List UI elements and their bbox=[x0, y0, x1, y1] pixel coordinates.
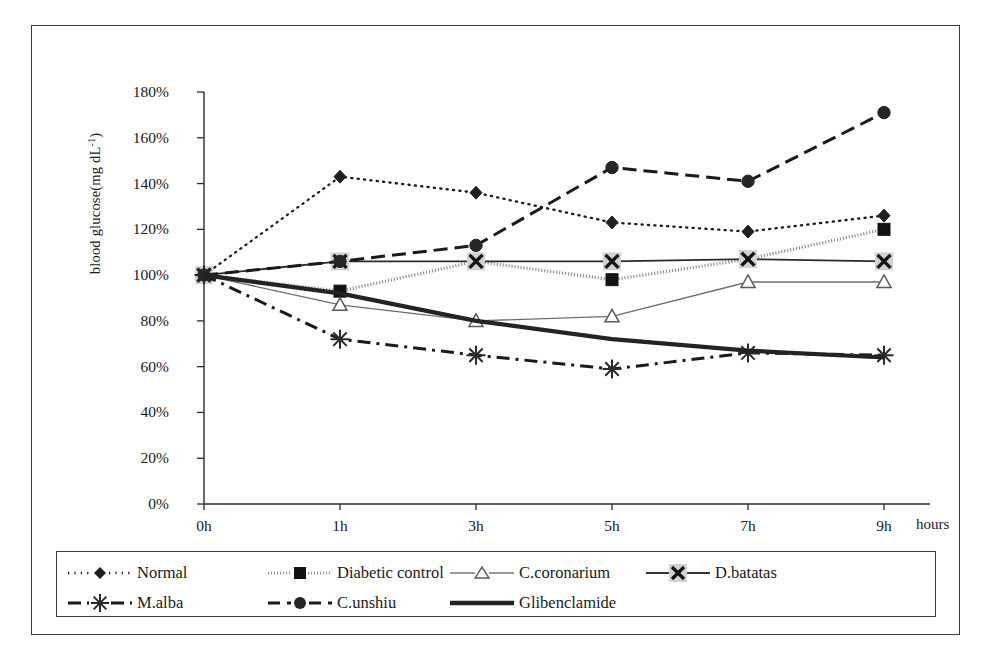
chart-legend: NormalDiabetic controlC.coronariumD.bata… bbox=[56, 551, 936, 617]
legend-label: Glibenclamide bbox=[515, 595, 626, 612]
x-tick-label: 3h bbox=[446, 518, 506, 534]
legend-swatch-icon bbox=[267, 562, 333, 584]
y-axis-title-text: blood glucose(mg dL bbox=[87, 146, 103, 274]
legend-swatch-icon bbox=[449, 562, 515, 584]
legend-swatch-icon bbox=[267, 592, 333, 614]
legend-label: D.batatas bbox=[711, 565, 787, 582]
legend-row: M.albaC.unshiuGlibenclamide bbox=[67, 588, 931, 618]
legend-label: C.unshiu bbox=[333, 595, 406, 612]
legend-swatch-icon bbox=[449, 592, 515, 614]
x-tick-label: 0h bbox=[174, 518, 234, 534]
legend-item-d-batatas[interactable]: D.batatas bbox=[645, 558, 787, 588]
x-tick-label: 9h bbox=[854, 518, 914, 534]
x-axis-tick-labels: 0h1h3h5h7h9h bbox=[32, 26, 961, 531]
x-tick-label: 1h bbox=[310, 518, 370, 534]
legend-swatch-icon bbox=[67, 592, 133, 614]
legend-item-m-alba[interactable]: M.alba bbox=[67, 588, 193, 618]
legend-item-normal[interactable]: Normal bbox=[67, 558, 197, 588]
legend-item-glibenclamide[interactable]: Glibenclamide bbox=[449, 588, 626, 618]
plot-area: 0%20%40%60%80%100%120%140%160%180% 0h1h3… bbox=[32, 26, 961, 531]
y-axis-title: blood glucose(mg dL-1) bbox=[86, 88, 105, 318]
legend-item-diabetic-control[interactable]: Diabetic control bbox=[267, 558, 454, 588]
legend-label: Diabetic control bbox=[333, 565, 454, 582]
legend-label: M.alba bbox=[133, 595, 193, 612]
legend-swatch-icon bbox=[67, 562, 133, 584]
y-axis-title-close: ) bbox=[87, 133, 103, 138]
x-axis-title: hours bbox=[916, 517, 949, 532]
legend-row: NormalDiabetic controlC.coronariumD.bata… bbox=[67, 558, 931, 588]
x-tick-label: 7h bbox=[718, 518, 778, 534]
x-tick-label: 5h bbox=[582, 518, 642, 534]
chart-figure-frame: 0%20%40%60%80%100%120%140%160%180% 0h1h3… bbox=[31, 25, 960, 635]
legend-item-c-coronarium[interactable]: C.coronarium bbox=[449, 558, 620, 588]
y-axis-title-exponent: -1 bbox=[86, 138, 97, 147]
legend-item-c-unshiu[interactable]: C.unshiu bbox=[267, 588, 406, 618]
legend-label: Normal bbox=[133, 565, 197, 582]
legend-label: C.coronarium bbox=[515, 565, 620, 582]
legend-swatch-icon bbox=[645, 562, 711, 584]
